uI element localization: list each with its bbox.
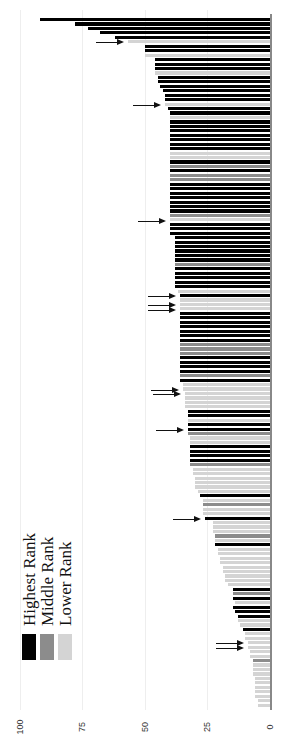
bar	[213, 525, 271, 528]
bar	[200, 494, 270, 497]
bar	[170, 156, 270, 159]
bar	[233, 588, 271, 591]
bar	[180, 339, 270, 342]
annotation-arrow	[96, 42, 122, 43]
bar	[255, 686, 270, 689]
bar	[195, 485, 270, 488]
bar	[243, 628, 271, 631]
bar	[170, 192, 270, 195]
bar	[158, 80, 271, 83]
annotation-arrow	[138, 221, 164, 222]
bar	[180, 316, 270, 319]
baseline-axis	[270, 14, 272, 710]
bar	[183, 383, 271, 386]
bar	[175, 263, 270, 266]
bar	[203, 499, 271, 502]
bar	[158, 76, 271, 79]
bar	[188, 432, 271, 435]
bar	[190, 454, 270, 457]
bar	[203, 503, 271, 506]
bar	[215, 534, 270, 537]
bar	[253, 668, 271, 671]
bar	[248, 641, 271, 644]
bar	[170, 138, 270, 141]
bar	[170, 232, 270, 235]
bar	[170, 218, 270, 221]
bar	[175, 285, 270, 288]
bar	[175, 245, 270, 248]
bar	[180, 307, 270, 310]
bar	[170, 143, 270, 146]
bar	[180, 330, 270, 333]
bar	[170, 223, 270, 226]
bar	[180, 321, 270, 324]
bar	[170, 120, 270, 123]
bar	[183, 387, 271, 390]
bar	[180, 347, 270, 350]
bar	[180, 361, 270, 364]
bar	[180, 370, 270, 373]
bar-chart: 100 75 50 25 0 Highest Rank Middle Rank …	[0, 0, 295, 744]
tick-75: 75	[77, 715, 87, 739]
bar	[175, 267, 270, 270]
annotation-arrow	[133, 105, 159, 106]
bar	[213, 521, 271, 524]
bar	[220, 561, 270, 564]
bar	[245, 632, 270, 635]
bar	[240, 623, 270, 626]
annotation-arrow	[153, 394, 179, 395]
bar	[245, 637, 270, 640]
bar	[170, 214, 270, 217]
legend-swatch-lower	[58, 634, 72, 660]
bar	[250, 650, 270, 653]
bar	[40, 18, 270, 21]
annotation-arrow	[216, 648, 242, 649]
bar	[175, 272, 270, 275]
bar	[170, 165, 270, 168]
bar	[180, 356, 270, 359]
bar	[180, 312, 270, 315]
bar	[170, 152, 270, 155]
bar	[190, 441, 270, 444]
bar	[195, 481, 270, 484]
legend: Highest Rank Middle Rank Lower Rank	[14, 540, 124, 670]
bar	[170, 209, 270, 212]
bar	[170, 187, 270, 190]
bar	[193, 472, 271, 475]
bar	[145, 45, 270, 48]
bar	[175, 258, 270, 261]
bar	[180, 294, 270, 297]
bar	[145, 54, 270, 57]
bar	[188, 414, 271, 417]
bar	[185, 401, 270, 404]
bar	[223, 570, 271, 573]
bar	[248, 646, 271, 649]
annotation-arrow	[151, 390, 177, 391]
bar	[175, 281, 270, 284]
bar	[233, 606, 271, 609]
bar	[180, 352, 270, 355]
legend-label-middle: Middle Rank	[38, 537, 58, 626]
annotation-arrow	[156, 430, 182, 431]
bar	[170, 196, 270, 199]
annotation-arrow	[148, 310, 174, 311]
bar	[170, 134, 270, 137]
bar	[193, 468, 271, 471]
bar	[188, 419, 271, 422]
bar	[160, 85, 270, 88]
bar	[203, 508, 271, 511]
bar	[255, 690, 270, 693]
bar	[180, 379, 270, 382]
bar	[215, 539, 270, 542]
bar	[258, 699, 271, 702]
bar	[228, 583, 271, 586]
bar	[170, 174, 270, 177]
bar	[190, 450, 270, 453]
bar	[218, 548, 271, 551]
bar	[178, 290, 271, 293]
bar	[170, 227, 270, 230]
bar	[225, 579, 270, 582]
bar	[213, 530, 271, 533]
bar	[185, 396, 270, 399]
bar	[75, 22, 270, 25]
